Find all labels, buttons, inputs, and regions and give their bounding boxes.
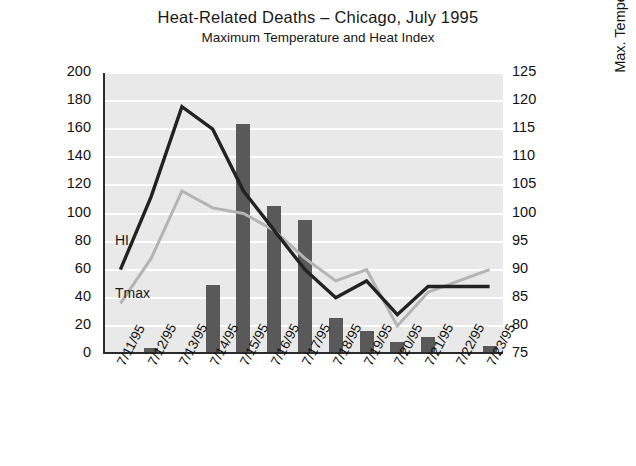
- y-tick-left: 0: [19, 344, 91, 360]
- line-hi: [120, 107, 489, 315]
- y-tick-right: 85: [512, 288, 582, 304]
- y-tick-left: 180: [19, 91, 91, 107]
- chart-figure: Heat-Related Deaths – Chicago, July 1995…: [0, 0, 636, 466]
- y-axis-right-label: Max. Temperature (F) or Max. Heat Index: [612, 0, 628, 90]
- y-tick-right: 95: [512, 232, 582, 248]
- y-tick-left: 80: [19, 232, 91, 248]
- line-series: [105, 73, 505, 354]
- y-tick-left: 20: [19, 316, 91, 332]
- y-axis-right-ticks: 7580859095100105110115120125: [512, 0, 582, 466]
- y-tick-right: 90: [512, 260, 582, 276]
- y-tick-right: 110: [512, 147, 582, 163]
- y-tick-left: 100: [19, 204, 91, 220]
- y-tick-left: 160: [19, 119, 91, 135]
- plot-area: HI Tmax: [103, 73, 503, 354]
- y-axis-left-ticks: 020406080100120140160180200: [0, 0, 99, 466]
- y-tick-right: 80: [512, 316, 582, 332]
- y-tick-right: 75: [512, 344, 582, 360]
- y-tick-left: 40: [19, 288, 91, 304]
- y-tick-right: 100: [512, 204, 582, 220]
- series-label-tmax: Tmax: [115, 285, 150, 301]
- y-tick-right: 115: [512, 119, 582, 135]
- y-tick-right: 120: [512, 91, 582, 107]
- y-tick-left: 120: [19, 175, 91, 191]
- y-tick-right: 125: [512, 63, 582, 79]
- line-tmax: [120, 191, 489, 326]
- series-label-hi: HI: [115, 232, 129, 248]
- y-tick-left: 140: [19, 147, 91, 163]
- y-tick-left: 60: [19, 260, 91, 276]
- y-tick-left: 200: [19, 63, 91, 79]
- y-tick-right: 105: [512, 175, 582, 191]
